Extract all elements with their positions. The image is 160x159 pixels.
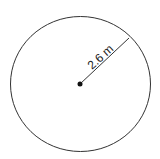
center-point: [78, 82, 83, 87]
radius-label: 2.6 m: [85, 42, 117, 72]
circle-diagram: 2.6 m: [0, 0, 160, 159]
